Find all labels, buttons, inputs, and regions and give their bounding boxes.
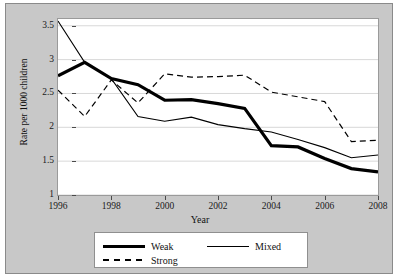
series-line-weak xyxy=(58,62,378,172)
legend-line-strong-icon xyxy=(103,255,145,265)
legend-item-weak: Weak xyxy=(103,239,174,253)
y-tick-mark xyxy=(72,93,76,94)
x-tick-label: 2006 xyxy=(315,202,334,212)
x-tick-label: 2008 xyxy=(369,202,388,212)
y-axis-label: Rate per 1000 children xyxy=(19,32,29,172)
x-tick-mark xyxy=(271,196,272,200)
y-tick-label: 3 xyxy=(49,55,54,65)
y-tick-label: 1.5 xyxy=(42,156,54,166)
legend-line-weak-icon xyxy=(103,241,145,251)
chart-legend: Weak Mixed Strong xyxy=(94,232,308,268)
x-tick-mark xyxy=(165,196,166,200)
x-axis-label: Year xyxy=(6,214,394,225)
x-tick-label: 1998 xyxy=(102,202,121,212)
x-tick-label: 2000 xyxy=(155,202,174,212)
series-line-strong xyxy=(58,74,378,142)
legend-label-strong: Strong xyxy=(151,255,178,266)
plot-area xyxy=(57,18,379,196)
legend-label-weak: Weak xyxy=(151,241,174,252)
legend-line-mixed-icon xyxy=(207,241,249,251)
legend-item-mixed: Mixed xyxy=(207,239,281,253)
y-tick-label: 2.5 xyxy=(42,88,54,98)
x-tick-mark xyxy=(111,196,112,200)
y-tick-mark xyxy=(72,161,76,162)
y-tick-mark xyxy=(72,26,76,27)
x-tick-mark xyxy=(58,196,59,200)
x-tick-mark xyxy=(325,196,326,200)
y-tick-mark xyxy=(72,127,76,128)
y-tick-label: 3.5 xyxy=(42,21,54,31)
legend-label-mixed: Mixed xyxy=(255,241,281,252)
y-tick-label: 2 xyxy=(49,122,54,132)
y-tick-mark xyxy=(72,195,76,196)
chart-figure: 11.522.533.5 199619982000200220042006200… xyxy=(5,3,393,274)
x-tick-mark xyxy=(378,196,379,200)
x-tick-label: 1996 xyxy=(49,202,68,212)
series-line-mixed xyxy=(58,21,378,158)
x-tick-label: 2002 xyxy=(209,202,228,212)
y-tick-label: 1 xyxy=(49,190,54,200)
legend-item-strong: Strong xyxy=(103,253,178,267)
x-tick-mark xyxy=(218,196,219,200)
plot-svg xyxy=(58,19,378,195)
x-tick-label: 2004 xyxy=(262,202,281,212)
y-tick-mark xyxy=(72,60,76,61)
